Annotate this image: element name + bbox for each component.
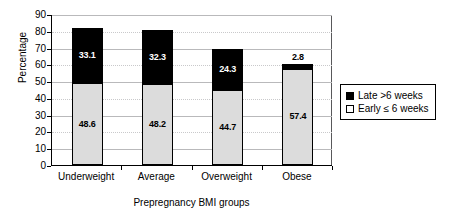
- bar-value-label: 44.7: [219, 123, 236, 132]
- bar-chart: Percentage 9080706050403020100 48.633.14…: [0, 0, 450, 218]
- y-axis-tick-label: 60: [22, 60, 46, 70]
- plot-right-border: [331, 15, 332, 165]
- y-axis-tick-label: 20: [22, 127, 46, 137]
- bar-value-label: 48.6: [79, 120, 96, 129]
- y-axis-tick-mark: [47, 99, 51, 100]
- y-axis-tick-label: 70: [22, 44, 46, 54]
- bar-segment-late[interactable]: 32.3: [142, 30, 173, 84]
- x-axis-tick-label: Underweight: [51, 171, 121, 182]
- x-axis-tick-label: Obese: [262, 171, 332, 182]
- y-axis-tick-labels: 9080706050403020100: [22, 0, 46, 218]
- bar-obese[interactable]: 57.42.8: [282, 64, 313, 165]
- x-axis-tick-label: Overweight: [192, 171, 262, 182]
- x-axis-tick-mark: [192, 166, 193, 170]
- x-axis-tick-label: Average: [121, 171, 191, 182]
- y-axis-tick-label: 30: [22, 111, 46, 121]
- legend-item[interactable]: Early ≤ 6 weeks: [346, 102, 429, 115]
- y-axis-tick-label: 90: [22, 10, 46, 20]
- bar-segment-late[interactable]: [282, 64, 313, 69]
- y-axis-tick-mark: [47, 132, 51, 133]
- y-axis-tick-mark: [47, 65, 51, 66]
- y-axis-tick-mark: [47, 15, 51, 16]
- legend-item[interactable]: Late >6 weeks: [346, 89, 429, 102]
- bar-segment-late[interactable]: 24.3: [212, 49, 243, 90]
- legend: Late >6 weeksEarly ≤ 6 weeks: [340, 84, 436, 120]
- bar-segment-late[interactable]: 33.1: [72, 28, 103, 84]
- y-axis-tick-label: 0: [22, 161, 46, 171]
- y-axis-tick-mark: [47, 166, 51, 167]
- bar-value-label: 2.8: [282, 53, 313, 62]
- y-axis-tick-mark: [47, 49, 51, 50]
- y-axis-tick-mark: [47, 116, 51, 117]
- bar-value-label: 32.3: [149, 53, 166, 62]
- legend-swatch-icon: [346, 105, 354, 113]
- y-axis-tick-label: 80: [22, 27, 46, 37]
- plot-area: 48.633.148.232.344.724.357.42.8: [51, 15, 332, 166]
- y-axis-tick-label: 40: [22, 94, 46, 104]
- y-axis-tick-mark: [47, 32, 51, 33]
- bar-segment-early[interactable]: 44.7: [212, 90, 243, 165]
- legend-label: Early ≤ 6 weeks: [358, 103, 429, 114]
- y-axis-tick-mark: [47, 149, 51, 150]
- bar-value-label: 48.2: [149, 120, 166, 129]
- bar-value-label: 24.3: [219, 65, 236, 74]
- bar-value-label: 33.1: [79, 51, 96, 60]
- y-axis-tick-label: 50: [22, 77, 46, 87]
- bar-segment-early[interactable]: 57.4: [282, 69, 313, 165]
- bar-underweight[interactable]: 48.633.1: [72, 28, 103, 165]
- x-axis-tick-mark: [332, 166, 333, 170]
- bar-value-label: 57.4: [290, 112, 307, 121]
- y-axis-tick-mark: [47, 82, 51, 83]
- x-axis-title: Prepregnancy BMI groups: [51, 197, 332, 208]
- gridline: [52, 15, 332, 16]
- bar-overweight[interactable]: 44.724.3: [212, 49, 243, 165]
- legend-label: Late >6 weeks: [358, 90, 423, 101]
- legend-swatch-icon: [346, 92, 354, 100]
- bar-segment-early[interactable]: 48.6: [72, 83, 103, 165]
- x-axis-tick-labels: UnderweightAverageOverweightObese: [51, 171, 332, 185]
- bar-average[interactable]: 48.232.3: [142, 30, 173, 165]
- x-axis-tick-mark: [262, 166, 263, 170]
- x-axis-tick-mark: [121, 166, 122, 170]
- bar-segment-early[interactable]: 48.2: [142, 84, 173, 165]
- y-axis-tick-label: 10: [22, 144, 46, 154]
